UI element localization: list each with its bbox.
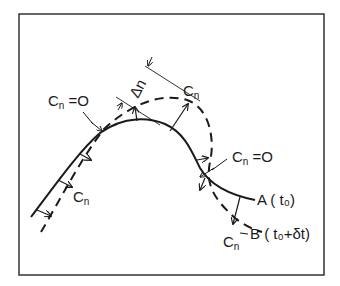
delta-n-arrow [148,57,152,66]
leader-cn-zero-right [200,159,227,177]
label-cn-bottom: Cn [223,233,239,252]
curve-a-solid [31,119,255,217]
label-cn-zero-right: Cn =O [232,148,273,167]
leader-b [240,233,248,234]
label-curve-a: A ( t₀) [257,191,295,208]
delta-n-arrow [118,103,122,110]
label-cn-top: Cn [183,82,199,101]
label-cn-left: Cn [73,188,89,207]
interface-diagram: Cn =O Δn Cn Cn Cn =O A ( t₀) B ( t₀+δt) … [0,0,340,286]
cn-arrow [197,158,208,160]
cn-arrow [58,180,72,187]
label-curve-b: B ( t₀+δt) [250,225,310,242]
curve-b-dashed [41,98,262,232]
label-delta-n: Δn [126,76,150,100]
cn-arrow [80,154,91,160]
cn-arrow [170,104,188,131]
cn-arrow [37,210,51,216]
leader-cn-zero-left [83,112,102,131]
cn-arrow [200,178,205,190]
label-cn-zero-left: Cn =O [48,92,89,111]
delta-n-guide [116,97,160,125]
